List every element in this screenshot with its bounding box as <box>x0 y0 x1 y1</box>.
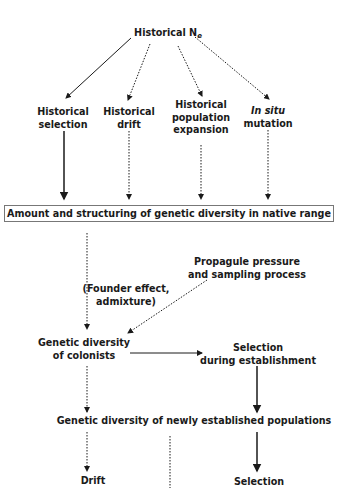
node-propagule-pressure: Propagule pressureand sampling process <box>188 256 306 281</box>
node-in-situ-mutation: In situmutation <box>243 105 292 130</box>
node-historical-ne: Historical Ne <box>134 27 202 43</box>
arrow-ne-to-mutation <box>195 37 269 99</box>
node-newly-established: Genetic diversity of newly established p… <box>57 415 332 428</box>
node-historical-drift: Historicaldrift <box>103 106 155 131</box>
node-selection-establishment: Selectionduring establishment <box>200 342 316 367</box>
arrow-ne-to-expansion <box>178 46 202 96</box>
native-range-box: Amount and structuring of genetic divers… <box>4 205 334 222</box>
arrow-ne-to-selection <box>66 38 131 98</box>
node-historical-selection: Historicalselection <box>37 106 89 131</box>
node-founder-effect: (Founder effect,admixture) <box>83 283 170 308</box>
arrow-ne-to-drift <box>128 44 150 100</box>
node-historical-expansion: Historicalpopulationexpansion <box>172 99 230 137</box>
node-selection: Selection <box>234 476 284 488</box>
node-colonists: Genetic diversityof colonists <box>38 337 130 362</box>
node-drift: Drift <box>81 475 106 488</box>
